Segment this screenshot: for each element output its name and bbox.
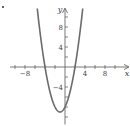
y-tick-label: 4 — [59, 44, 64, 52]
x-axis-label: x — [125, 69, 130, 78]
y-tick-label: −4 — [53, 84, 64, 92]
x-tick-label: 8 — [103, 70, 107, 78]
x-tick-label: −8 — [20, 70, 30, 78]
parabola-graph: −84884−4xy — [0, 0, 130, 126]
x-tick-label: 4 — [83, 70, 88, 78]
y-axis-label: y — [57, 5, 63, 14]
y-tick-label: 8 — [59, 24, 63, 32]
